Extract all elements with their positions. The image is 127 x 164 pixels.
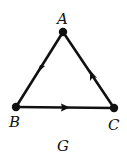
edge-c-a <box>63 32 114 108</box>
arrow-a-b-icon <box>36 65 45 74</box>
label-c: C <box>108 116 120 134</box>
node-a <box>59 28 67 36</box>
arrowheads <box>36 65 97 112</box>
label-a: A <box>55 10 68 28</box>
edges <box>16 32 114 108</box>
graph-caption: G <box>57 137 69 155</box>
graph-diagram: A B C G <box>0 0 127 164</box>
label-b: B <box>8 113 20 131</box>
node-c <box>110 104 118 112</box>
node-b <box>12 103 20 111</box>
arrow-b-c-icon <box>61 104 70 112</box>
nodes <box>12 28 118 112</box>
